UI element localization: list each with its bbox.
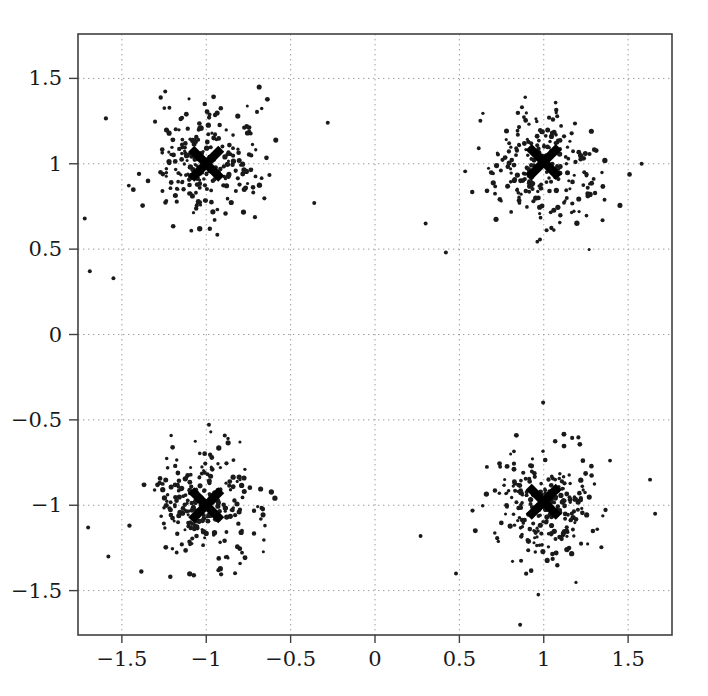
scatter-point (210, 466, 213, 469)
scatter-point (224, 530, 228, 534)
scatter-point (562, 444, 567, 449)
scatter-point (187, 513, 190, 516)
scatter-point (180, 116, 184, 120)
scatter-point (550, 475, 554, 479)
y-tick-label: −1.5 (11, 579, 62, 603)
scatter-point (512, 177, 517, 182)
scatter-point (570, 211, 573, 214)
scatter-point (552, 228, 556, 232)
scatter-point (570, 131, 574, 135)
scatter-point (201, 543, 205, 547)
scatter-point (591, 529, 596, 534)
scatter-point (493, 531, 497, 535)
y-tick-label: 1 (49, 152, 62, 176)
scatter-point (179, 157, 184, 162)
scatter-point (237, 474, 242, 479)
scatter-point (593, 191, 597, 195)
scatter-point (231, 133, 235, 137)
scatter-point (164, 199, 168, 203)
scatter-point (213, 218, 217, 222)
scatter-point (246, 182, 249, 185)
scatter-point (548, 140, 552, 144)
scatter-point (223, 434, 227, 438)
scatter-point (538, 212, 541, 215)
scatter-point (227, 159, 230, 162)
scatter-point (585, 214, 589, 218)
scatter-point (519, 559, 523, 563)
scatter-point (516, 133, 520, 137)
scatter-point (537, 139, 541, 143)
scatter-point (239, 530, 244, 535)
scatter-point (252, 509, 256, 513)
scatter-point (205, 519, 210, 524)
scatter-point (209, 200, 214, 205)
scatter-point (581, 458, 586, 463)
scatter-point (504, 512, 507, 515)
scatter-point (256, 505, 259, 508)
scatter-point (168, 575, 173, 580)
scatter-point (167, 151, 170, 154)
scatter-point (527, 479, 532, 484)
scatter-point (527, 122, 530, 125)
scatter-point (576, 508, 580, 512)
scatter-point (538, 128, 542, 132)
scatter-point (169, 180, 174, 185)
scatter-point-outlier (424, 222, 428, 226)
scatter-point (545, 180, 549, 184)
scatter-point (205, 515, 208, 518)
scatter-point (197, 121, 202, 126)
scatter-point (541, 450, 544, 453)
scatter-point (539, 216, 543, 220)
scatter-point (554, 101, 558, 105)
scatter-point (230, 508, 235, 513)
scatter-point (517, 125, 521, 129)
scatter-point (226, 440, 231, 445)
scatter-point (258, 486, 263, 491)
scatter-point (516, 111, 520, 115)
scatter-point (560, 479, 564, 483)
scatter-point (216, 208, 220, 212)
scatter-point (242, 489, 247, 494)
scatter-point (602, 158, 607, 163)
scatter-point (549, 180, 553, 184)
scatter-point (517, 143, 521, 147)
scatter-point (127, 184, 131, 188)
scatter-point (166, 466, 170, 470)
scatter-point (211, 136, 216, 141)
scatter-point (493, 488, 498, 493)
scatter-point (585, 194, 590, 199)
scatter-point (186, 521, 190, 525)
scatter-point (158, 476, 163, 481)
scatter-point (220, 144, 224, 148)
scatter-point (196, 199, 201, 204)
scatter-point (577, 210, 580, 213)
scatter-point (540, 543, 544, 547)
scatter-point (520, 501, 524, 505)
scatter-point (576, 196, 581, 201)
scatter-point (267, 173, 271, 177)
scatter-point (556, 504, 560, 508)
scatter-point (184, 476, 188, 480)
scatter-point-outlier (111, 276, 115, 280)
scatter-point (516, 519, 519, 522)
scatter-point (584, 172, 588, 176)
scatter-point (180, 152, 183, 155)
scatter-point (166, 493, 170, 497)
scatter-point (216, 556, 221, 561)
scatter-point (194, 534, 199, 539)
scatter-point (208, 453, 212, 457)
scatter-point-outlier (86, 525, 90, 529)
scatter-point (535, 134, 540, 139)
scatter-point (485, 465, 489, 469)
scatter-point (187, 480, 192, 485)
scatter-point (185, 509, 189, 513)
scatter-point (505, 138, 508, 141)
scatter-point (555, 563, 559, 567)
scatter-point (571, 528, 575, 532)
x-tick-label: 1 (537, 647, 550, 671)
scatter-point (203, 198, 208, 203)
scatter-point (576, 435, 580, 439)
scatter-point (206, 472, 210, 476)
scatter-point (236, 480, 239, 483)
scatter-point (499, 168, 503, 172)
